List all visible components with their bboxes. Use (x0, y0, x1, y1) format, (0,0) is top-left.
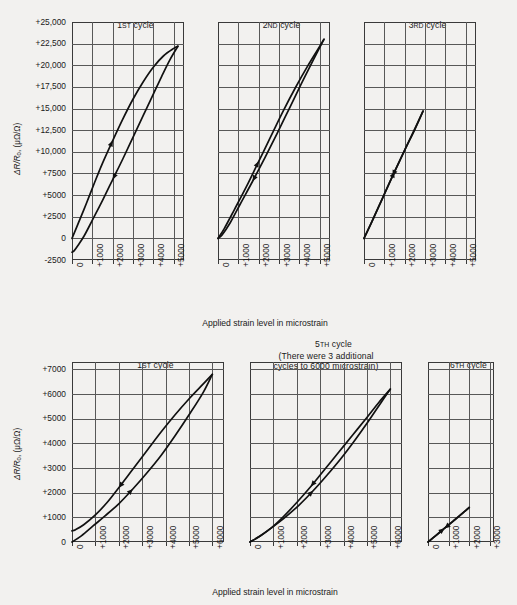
hysteresis-curve-p6 (0, 0, 517, 605)
figure-canvas: 1ST cycle 2ND cycle 3RD cycle 1ST cycle … (0, 0, 517, 605)
